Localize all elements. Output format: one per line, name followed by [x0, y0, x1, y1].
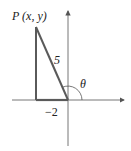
base-label: −2 [45, 105, 58, 119]
angle-label: θ [80, 77, 86, 91]
point-label: P (x, y) [11, 9, 47, 23]
triangle-diagram: P (x, y) 5 −2 θ [0, 0, 131, 151]
triangle-hypotenuse [36, 27, 68, 100]
hypotenuse-label: 5 [54, 53, 60, 67]
